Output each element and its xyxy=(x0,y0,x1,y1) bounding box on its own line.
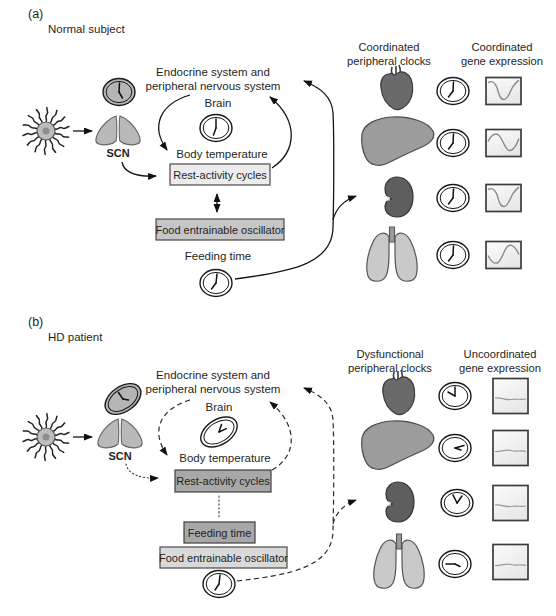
organ-liver-icon xyxy=(362,117,434,165)
panel-a: (a) Normal subject SCN Endocrine system … xyxy=(22,7,543,297)
panel-b-tag: (b) xyxy=(28,315,43,329)
organ-heart-icon xyxy=(381,65,413,110)
endocrine-label-line2: peripheral nervous system xyxy=(146,383,281,395)
dotted-arrow-scn-to-rest-activity xyxy=(126,464,158,478)
organ-kidney-icon xyxy=(386,482,414,522)
brain-label: Brain xyxy=(206,401,233,413)
diagram-canvas: (a) Normal subject SCN Endocrine system … xyxy=(0,0,556,616)
kidney-clock-icon xyxy=(437,185,469,212)
food-oscillator-label: Food entrainable oscillator xyxy=(159,552,288,564)
sun-icon xyxy=(22,107,70,155)
organ-liver-icon xyxy=(362,421,434,469)
endocrine-label-line2: peripheral nervous system xyxy=(146,80,281,92)
kidney-expression-plot xyxy=(493,486,528,521)
brain-clock-icon xyxy=(200,115,232,142)
heart-clock-icon xyxy=(439,383,471,410)
arrow-feeding-to-organs xyxy=(333,196,356,220)
arrow-endocrine-to-bodytemp xyxy=(159,95,190,150)
brain-label: Brain xyxy=(205,97,232,109)
body-temperature-label: Body temperature xyxy=(176,148,267,160)
figure-circadian-diagram: (a) Normal subject SCN Endocrine system … xyxy=(0,0,556,616)
expression-header-line1: Coordinated xyxy=(472,41,533,53)
heart-expression-plot xyxy=(486,78,521,105)
liver-expression-plot xyxy=(486,130,521,157)
rest-activity-label: Rest-activity cycles xyxy=(176,475,270,487)
lungs-clock-icon xyxy=(439,551,471,578)
scn-label: SCN xyxy=(108,450,131,462)
feeding-time-label: Feeding time xyxy=(188,527,252,539)
liver-expression-plot xyxy=(493,431,528,466)
body-temperature-label: Body temperature xyxy=(179,452,270,464)
panel-a-tag: (a) xyxy=(28,7,43,21)
scn-tilted-clock-icon xyxy=(99,377,146,420)
liver-clock-icon xyxy=(439,435,471,462)
lungs-expression-plot xyxy=(493,545,528,580)
feeding-clock-icon xyxy=(200,270,232,297)
expression-header-line1: Uncoordinated xyxy=(464,348,537,360)
scn-icon xyxy=(98,419,142,448)
brain-tilted-clock-icon xyxy=(195,411,242,453)
scn-label: SCN xyxy=(106,147,129,159)
organ-kidney-icon xyxy=(385,177,413,217)
clocks-header-line1: Coordinated xyxy=(359,41,420,53)
heart-clock-icon xyxy=(437,78,469,105)
panel-a-subject-label: Normal subject xyxy=(48,23,125,35)
organ-heart-icon xyxy=(383,370,415,415)
organ-lungs-icon xyxy=(367,227,417,281)
heart-expression-plot xyxy=(493,379,528,414)
expression-header-line2: gene expression xyxy=(459,362,541,374)
arrow-restactivity-to-endocrine xyxy=(270,97,291,168)
panel-b-subject-label: HD patient xyxy=(48,331,103,343)
organ-lungs-icon xyxy=(374,534,424,588)
kidney-expression-plot xyxy=(486,185,521,212)
expression-header-line2: gene expression xyxy=(461,55,543,67)
arrow-scn-to-rest-activity xyxy=(122,162,156,176)
dashed-arrow-feeding-to-organs xyxy=(333,500,356,524)
dashed-arrow-restactivity-to-endocrine xyxy=(270,402,291,470)
food-oscillator-label: Food entrainable oscillator xyxy=(155,224,284,236)
scn-clock-icon xyxy=(103,79,135,106)
panel-b: (b) HD patient SCN Endocrine system and … xyxy=(22,315,541,598)
rest-activity-label: Rest-activity cycles xyxy=(173,169,267,181)
lungs-expression-plot xyxy=(486,242,521,269)
liver-clock-icon xyxy=(437,130,469,157)
clocks-header-line2: peripheral clocks xyxy=(348,362,432,374)
endocrine-label-line1: Endocrine system and xyxy=(156,66,270,78)
clocks-header-line2: peripheral clocks xyxy=(347,55,431,67)
feeding-time-label: Feeding time xyxy=(185,250,251,262)
feeding-clock-icon xyxy=(203,571,235,598)
scn-icon xyxy=(96,116,140,145)
lungs-clock-icon xyxy=(437,242,469,269)
dashed-arrow-endocrine-to-bodytemp xyxy=(159,400,190,455)
endocrine-label-line1: Endocrine system and xyxy=(156,369,270,381)
sun-icon xyxy=(22,413,70,461)
clocks-header-line1: Dysfunctional xyxy=(356,348,423,360)
kidney-clock-icon xyxy=(441,490,473,517)
